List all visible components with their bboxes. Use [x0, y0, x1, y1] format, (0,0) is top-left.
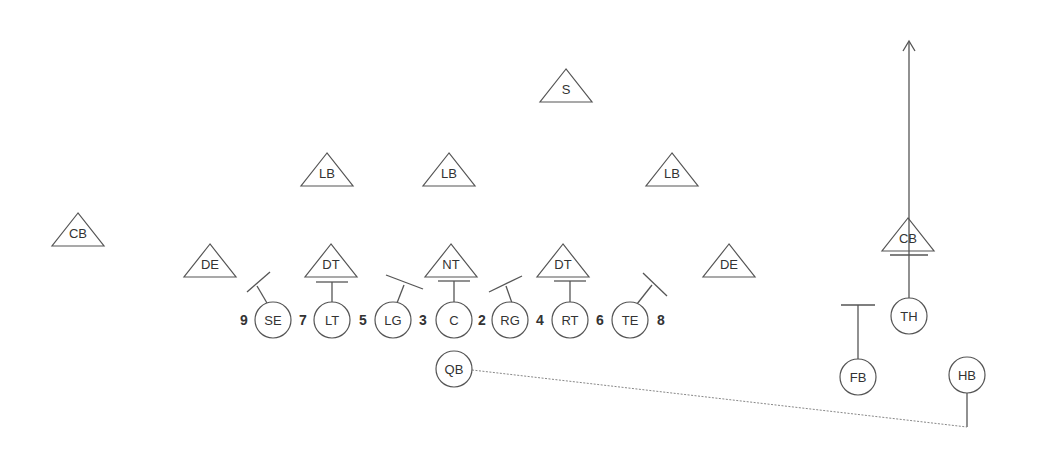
defender-label: CB	[69, 226, 87, 241]
player-hb: HB	[949, 357, 985, 393]
player-label: RT	[561, 313, 578, 328]
gap-number: 5	[359, 312, 367, 328]
defender-label: DE	[720, 257, 738, 272]
gap-number: 2	[478, 312, 486, 328]
player-label: HB	[958, 368, 976, 383]
qb-hb-motion-line	[472, 370, 967, 427]
defender-label: NT	[442, 257, 459, 272]
player-label: RG	[500, 313, 520, 328]
defender-label: DT	[554, 257, 571, 272]
player-se: SE	[255, 302, 291, 338]
gap-number: 3	[419, 312, 427, 328]
defender-nt: NT	[425, 244, 477, 277]
player-label: C	[449, 313, 458, 328]
gap-number: 4	[536, 312, 544, 328]
player-label: SE	[264, 313, 282, 328]
defender-label: LB	[319, 166, 335, 181]
defender-lb-right: LB	[646, 153, 698, 186]
defender-label: LB	[441, 166, 457, 181]
player-label: LG	[384, 313, 401, 328]
player-qb: QB	[436, 351, 472, 387]
player-lg: LG	[375, 302, 411, 338]
player-label: TE	[622, 313, 639, 328]
player-te: TE	[612, 302, 648, 338]
lg-block-stem	[397, 285, 404, 303]
play-diagram: S LB LB LB CB DE DT NT	[0, 0, 1038, 449]
player-fb: FB	[840, 359, 876, 395]
se-block-stem	[257, 286, 267, 303]
defender-de-left: DE	[184, 244, 236, 277]
defense-layer: S LB LB LB CB DE DT NT	[52, 69, 934, 277]
player-lt: LT	[314, 302, 350, 338]
defender-lb-left: LB	[301, 153, 353, 186]
defender-label: LB	[664, 166, 680, 181]
rg-block-bar	[489, 276, 522, 292]
defender-de-right: DE	[703, 244, 755, 277]
defender-dt-left: DT	[305, 244, 357, 277]
defender-label: DE	[201, 257, 219, 272]
defender-label: S	[562, 82, 571, 97]
te-block-stem	[637, 285, 652, 304]
lg-block-bar	[386, 275, 423, 289]
defender-dt-right: DT	[537, 244, 589, 277]
gap-number: 8	[657, 312, 665, 328]
player-label: TH	[900, 309, 917, 324]
player-label: QB	[445, 362, 464, 377]
player-rg: RG	[492, 302, 528, 338]
player-th: TH	[891, 298, 927, 334]
gap-number: 9	[240, 312, 248, 328]
defender-label: DT	[322, 257, 339, 272]
defender-cb-right: CB	[882, 218, 934, 251]
player-rt: RT	[552, 302, 588, 338]
defender-s: S	[540, 69, 592, 102]
defender-cb-left: CB	[52, 213, 104, 246]
player-c: C	[436, 302, 472, 338]
defender-lb-middle: LB	[423, 153, 475, 186]
gap-number: 6	[596, 312, 604, 328]
player-label: FB	[850, 370, 867, 385]
gap-number: 7	[299, 312, 307, 328]
rg-block-stem	[506, 286, 512, 303]
defender-label: CB	[899, 231, 917, 246]
player-label: LT	[325, 313, 339, 328]
